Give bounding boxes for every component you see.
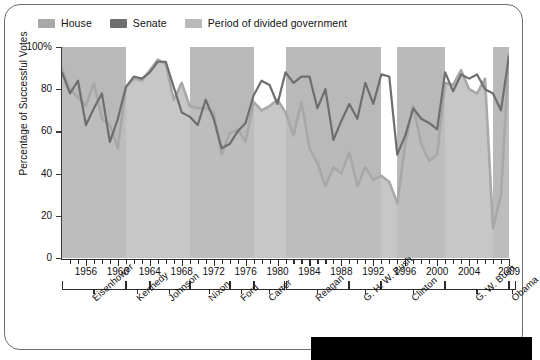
- y-tick-label: 60: [6, 125, 52, 136]
- legend-house-label: House: [61, 17, 92, 29]
- y-tick: [56, 258, 61, 259]
- x-tick-label: 1956: [69, 266, 103, 277]
- x-tick: [214, 259, 215, 266]
- x-tick: [222, 259, 223, 264]
- y-axis-line: [61, 47, 62, 259]
- x-tick-label: 2000: [420, 266, 454, 277]
- x-tick: [110, 259, 111, 264]
- x-tick: [437, 259, 438, 266]
- x-tick: [86, 259, 87, 266]
- x-tick: [198, 259, 199, 264]
- x-tick: [485, 259, 486, 264]
- x-tick: [469, 259, 470, 266]
- x-tick: [477, 259, 478, 264]
- x-tick: [445, 259, 446, 264]
- x-tick: [230, 259, 231, 264]
- series-lines: [62, 47, 509, 258]
- x-tick: [493, 259, 494, 264]
- x-tick: [365, 259, 366, 264]
- x-tick: [301, 259, 302, 264]
- x-tick: [166, 259, 167, 264]
- series-svg: [62, 47, 509, 258]
- y-tick: [56, 89, 61, 90]
- legend-house: House: [38, 17, 92, 29]
- x-tick-label: 1976: [229, 266, 263, 277]
- y-tick-label: 0: [6, 252, 52, 263]
- y-tick: [56, 174, 61, 175]
- x-tick: [254, 259, 255, 264]
- y-axis-title: Percentage of Successful Votes: [18, 9, 29, 199]
- plot-area: [62, 47, 509, 258]
- x-tick: [94, 259, 95, 264]
- x-tick: [421, 259, 422, 264]
- legend-house-swatch-icon: [38, 19, 55, 28]
- x-tick: [325, 259, 326, 264]
- legend-divided: Period of divided government: [185, 17, 347, 29]
- x-tick: [158, 259, 159, 264]
- x-tick: [349, 259, 350, 264]
- y-tick-label: 80: [6, 83, 52, 94]
- x-tick: [102, 259, 103, 264]
- y-tick: [56, 47, 61, 48]
- legend-divided-swatch-icon: [185, 19, 202, 28]
- y-tick: [56, 131, 61, 132]
- x-tick: [150, 259, 151, 266]
- x-tick: [501, 259, 502, 264]
- x-tick: [461, 259, 462, 264]
- x-tick: [333, 259, 334, 264]
- x-tick-label: 1972: [197, 266, 231, 277]
- x-tick: [453, 259, 454, 264]
- legend-divided-label: Period of divided government: [208, 17, 347, 29]
- x-tick: [142, 259, 143, 264]
- x-tick: [174, 259, 175, 264]
- x-tick: [134, 259, 135, 264]
- x-tick-label: 1984: [292, 266, 326, 277]
- x-tick: [389, 259, 390, 264]
- x-tick: [262, 259, 263, 264]
- x-tick: [317, 259, 318, 264]
- legend-senate: Senate: [110, 17, 167, 29]
- x-tick: [238, 259, 239, 264]
- x-tick: [190, 259, 191, 264]
- x-tick: [278, 259, 279, 266]
- chart-legend: HouseSenatePeriod of divided government: [38, 17, 347, 29]
- x-tick: [246, 259, 247, 266]
- x-tick: [70, 259, 71, 264]
- x-tick: [429, 259, 430, 264]
- president-terms-axis: EisenhowerKennedyJohnsonNixonFordCarterR…: [62, 281, 511, 357]
- x-tick: [270, 259, 271, 264]
- x-tick-label: 2004: [452, 266, 486, 277]
- x-tick: [118, 259, 119, 266]
- x-tick: [293, 259, 294, 264]
- x-tick: [357, 259, 358, 264]
- y-tick-label: 100%: [6, 41, 52, 52]
- x-tick: [182, 259, 183, 266]
- x-tick: [341, 259, 342, 266]
- x-tick: [309, 259, 310, 266]
- legend-senate-swatch-icon: [110, 19, 127, 28]
- y-tick-label: 40: [6, 168, 52, 179]
- x-tick: [286, 259, 287, 264]
- x-tick: [373, 259, 374, 266]
- x-tick: [381, 259, 382, 264]
- x-tick: [78, 259, 79, 264]
- x-tick-label: 1980: [261, 266, 295, 277]
- legend-senate-label: Senate: [133, 17, 167, 29]
- y-tick: [56, 216, 61, 217]
- y-tick-label: 20: [6, 210, 52, 221]
- x-tick: [206, 259, 207, 264]
